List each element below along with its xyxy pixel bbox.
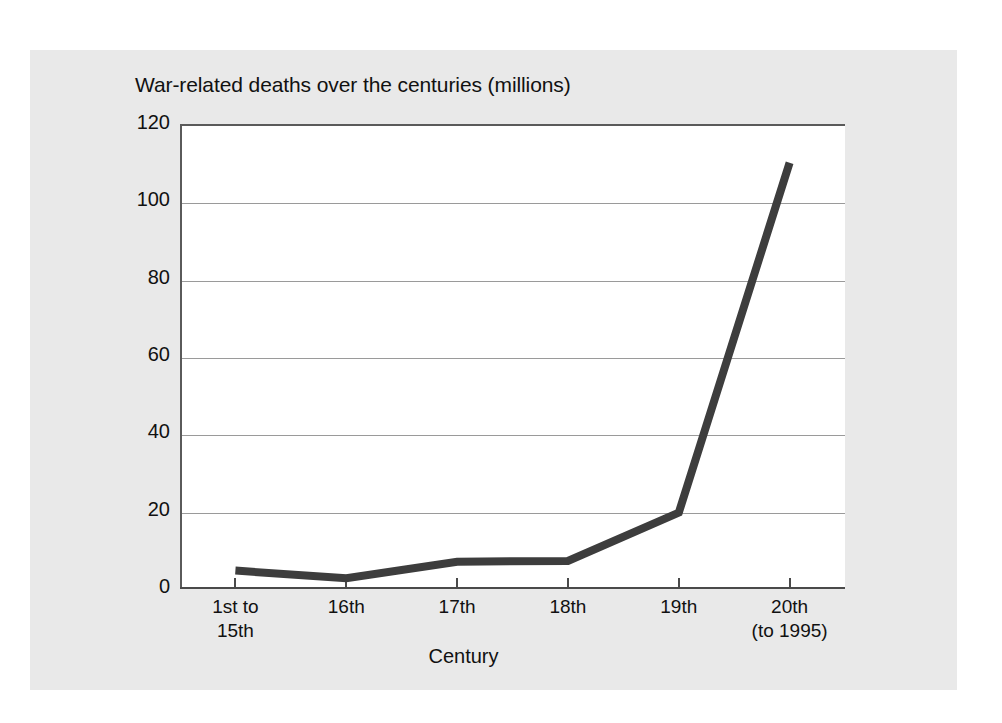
y-tick-label: 20 xyxy=(148,498,170,521)
x-axis-title: Century xyxy=(0,645,1002,668)
y-tick-label: 0 xyxy=(159,575,170,598)
x-tick xyxy=(234,578,236,589)
x-tick xyxy=(567,578,569,589)
y-tick-label: 120 xyxy=(137,111,170,134)
x-tick-label: 1st to 15th xyxy=(212,595,258,642)
x-axis-line xyxy=(180,587,845,589)
y-axis-tick-labels: 020406080100120 xyxy=(110,0,170,723)
gridline xyxy=(182,513,845,514)
x-tick xyxy=(456,578,458,589)
x-tick-label: 16th xyxy=(328,595,365,619)
x-axis-title-label: Century xyxy=(428,645,498,668)
y-tick-label: 40 xyxy=(148,420,170,443)
chart-title: War-related deaths over the centuries (m… xyxy=(135,73,571,97)
y-tick-label: 80 xyxy=(148,266,170,289)
gridlines xyxy=(182,126,845,588)
x-tick-label: 19th xyxy=(660,595,697,619)
gridline xyxy=(182,435,845,436)
x-tick xyxy=(345,578,347,589)
plot-area xyxy=(180,124,845,588)
y-tick-label: 100 xyxy=(137,188,170,211)
gridline xyxy=(182,203,845,204)
x-tick-label: 18th xyxy=(549,595,586,619)
x-tick xyxy=(789,578,791,589)
gridline xyxy=(182,281,845,282)
x-tick-label: 20th (to 1995) xyxy=(752,595,828,642)
x-tick xyxy=(678,578,680,589)
gridline xyxy=(182,358,845,359)
x-tick-label: 17th xyxy=(439,595,476,619)
y-tick-label: 60 xyxy=(148,343,170,366)
